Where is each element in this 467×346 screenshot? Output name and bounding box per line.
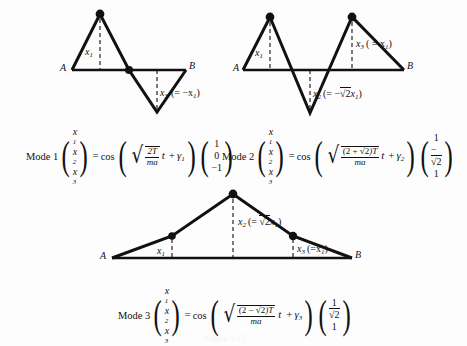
mode-3-x1-label: x1 bbox=[157, 245, 165, 258]
vec-x1: x1 bbox=[165, 285, 169, 305]
mode-2-x2-label: x2(= −√2x1) bbox=[313, 88, 362, 101]
mode-1-x3-label: x3(= −x1) bbox=[160, 87, 200, 100]
mode-3-x2-label: x2(= √2x1) bbox=[238, 216, 281, 229]
eig-3: −1 bbox=[211, 162, 222, 174]
mode-3-mass-2 bbox=[229, 190, 238, 199]
mode-3-equation-title: Mode 3 bbox=[118, 310, 151, 321]
mode-3-eigenvector: ( 1 √2 1 ) bbox=[316, 297, 353, 332]
radical-sign: √ bbox=[327, 146, 339, 166]
mode-2-label-B: B bbox=[407, 60, 413, 71]
frequency-fraction: (2 − √2)T ma bbox=[237, 305, 276, 326]
frequency-denominator: ma bbox=[352, 158, 367, 167]
cos-function: cos bbox=[101, 151, 116, 162]
radical-sign: √ bbox=[131, 146, 143, 166]
mode-3-mass-1 bbox=[168, 232, 176, 240]
mode-1-equation: Mode 1 ( x1 x2 x3 ) = cos ( √ 2T ma t + … bbox=[26, 126, 235, 186]
eig-2: 0 bbox=[214, 150, 219, 162]
mode-1-x1-label: x1 bbox=[85, 46, 93, 59]
eig-2: √2 bbox=[329, 309, 340, 321]
frequency-denominator: ma bbox=[248, 317, 263, 326]
mode-3-displacement-vector: ( x1 x2 x3 ) bbox=[151, 285, 182, 345]
figure-container: A B x1 x3(= −x1) A B x1 x3( = x1) x2(= −… bbox=[0, 0, 467, 346]
figure-caption: Figure 5.15 bbox=[205, 334, 245, 343]
plus-sign: + bbox=[284, 309, 294, 321]
phase-gamma: γ1 bbox=[177, 150, 185, 163]
mode-1-frequency-radical: √ 2T ma bbox=[129, 145, 160, 167]
mode-2-x1-label: x1 bbox=[255, 47, 263, 60]
eig-1: 1 bbox=[434, 132, 439, 144]
mode-1-mass-1 bbox=[96, 10, 105, 19]
mode-2-frequency-radical: √ (2 + √2)T ma bbox=[325, 145, 379, 167]
mode-1-mass-2 bbox=[125, 66, 133, 74]
mode-3-mass-3 bbox=[289, 232, 297, 240]
eig-3: 1 bbox=[434, 168, 439, 180]
time-variable: t bbox=[379, 150, 386, 162]
vec-x3: x3 bbox=[165, 325, 169, 345]
equals-sign: = bbox=[182, 309, 192, 321]
mode-1-displacement-vector: ( x1 x2 x3 ) bbox=[59, 126, 90, 186]
mode-1-label-B: B bbox=[189, 60, 195, 71]
frequency-fraction: (2 + √2)T ma bbox=[341, 146, 380, 167]
frequency-fraction: 2T ma bbox=[145, 146, 160, 167]
eig-3: 1 bbox=[332, 321, 337, 333]
mode-1-label-A: A bbox=[60, 62, 66, 73]
mode-1-equation-title: Mode 1 bbox=[26, 151, 59, 162]
mode-2-equation-title: Mode 2 bbox=[222, 151, 255, 162]
equals-sign: = bbox=[90, 150, 100, 162]
time-variable: t bbox=[160, 150, 167, 162]
eig-1: 1 bbox=[214, 138, 219, 150]
frequency-numerator: (2 − √2)T bbox=[237, 306, 276, 316]
phase-gamma: γ2 bbox=[397, 150, 405, 163]
vec-x1: x1 bbox=[73, 126, 77, 146]
vec-x2: x2 bbox=[73, 146, 77, 166]
vec-x2: x2 bbox=[269, 146, 273, 166]
eig-2: −√2 bbox=[431, 144, 442, 168]
mode-2-label-A: A bbox=[233, 62, 239, 73]
mode-3-frequency-radical: √ (2 − √2)T ma bbox=[221, 304, 275, 326]
mode-3-x3-label: x3(=x1) bbox=[297, 243, 328, 256]
cos-function: cos bbox=[297, 151, 312, 162]
plus-sign: + bbox=[167, 150, 177, 162]
mode-3-label-A: A bbox=[100, 250, 106, 261]
time-variable: t bbox=[275, 309, 284, 321]
plus-sign: + bbox=[386, 150, 396, 162]
vec-x2: x2 bbox=[165, 305, 169, 325]
vec-x3: x3 bbox=[269, 166, 273, 186]
cos-function: cos bbox=[193, 310, 208, 321]
mode-2-mass-3 bbox=[348, 13, 357, 22]
equals-sign: = bbox=[286, 150, 296, 162]
vec-x3: x3 bbox=[73, 166, 77, 186]
radical-sign: √ bbox=[223, 305, 235, 325]
frequency-denominator: ma bbox=[145, 158, 160, 167]
frequency-numerator: 2T bbox=[145, 147, 159, 157]
frequency-numerator: (2 + √2)T bbox=[341, 147, 380, 157]
mode-2-eigenvector: ( 1 −√2 1 ) bbox=[418, 132, 455, 179]
vec-x1: x1 bbox=[269, 126, 273, 146]
mode-3-label-B: B bbox=[355, 249, 361, 260]
phase-gamma: γ3 bbox=[295, 309, 303, 322]
mode-2-displacement-vector: ( x1 x2 x3 ) bbox=[255, 126, 286, 186]
mode-2-equation: Mode 2 ( x1 x2 x3 ) = cos ( √ (2 + √2)T … bbox=[222, 126, 455, 186]
mode-2-mass-1 bbox=[266, 13, 275, 22]
mode-2-x3-label: x3( = x1) bbox=[356, 38, 392, 51]
